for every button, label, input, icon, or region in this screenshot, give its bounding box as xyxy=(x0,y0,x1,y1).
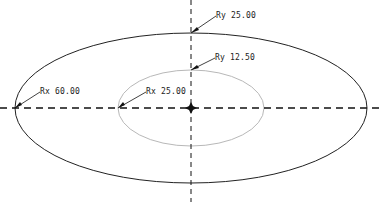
dimension-label-inner-ry: Ry 12.50 xyxy=(215,53,255,62)
dimension-label-outer-rx: Rx 60.00 xyxy=(40,87,80,96)
center-point-icon xyxy=(185,102,197,114)
leader-outer-ry xyxy=(191,16,216,33)
leader-outer-rx xyxy=(15,92,40,108)
leader-inner-ry xyxy=(191,58,215,70)
dimension-label-outer-ry: Ry 25.00 xyxy=(216,11,256,20)
ellipse-diagram xyxy=(0,0,380,202)
dimension-label-inner-rx: Rx 25.00 xyxy=(146,87,186,96)
